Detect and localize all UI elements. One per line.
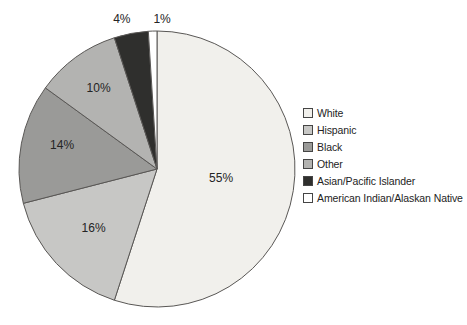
legend-label-hispanic: Hispanic bbox=[317, 124, 356, 136]
slice-label-black: 14% bbox=[50, 138, 74, 152]
pie-chart-figure: 55%16%14%10%4%1% White Hispanic Black Ot… bbox=[0, 0, 467, 325]
legend-swatch-hispanic bbox=[303, 125, 313, 135]
legend-item-american-indian-alaskan-native: American Indian/Alaskan Native bbox=[303, 189, 463, 206]
legend-item-hispanic: Hispanic bbox=[303, 121, 463, 138]
slice-label-white: 55% bbox=[209, 171, 233, 185]
legend-item-white: White bbox=[303, 104, 463, 121]
legend-item-black: Black bbox=[303, 138, 463, 155]
legend-label-other: Other bbox=[317, 158, 343, 170]
legend: White Hispanic Black Other Asian/Pacific… bbox=[303, 104, 463, 206]
legend-swatch-asian-pacific-islander bbox=[303, 176, 313, 186]
slice-label-american-indian-alaskan-native: 1% bbox=[153, 12, 171, 26]
slice-label-other: 10% bbox=[87, 81, 111, 95]
legend-swatch-other bbox=[303, 159, 313, 169]
legend-label-black: Black bbox=[317, 141, 342, 153]
legend-swatch-black bbox=[303, 142, 313, 152]
legend-item-asian-pacific-islander: Asian/Pacific Islander bbox=[303, 172, 463, 189]
legend-label-asian-pacific-islander: Asian/Pacific Islander bbox=[317, 175, 415, 187]
legend-label-american-indian-alaskan-native: American Indian/Alaskan Native bbox=[317, 192, 463, 204]
slice-label-hispanic: 16% bbox=[82, 221, 106, 235]
legend-swatch-white bbox=[303, 108, 313, 118]
legend-label-white: White bbox=[317, 107, 343, 119]
slice-label-asian-pacific-islander: 4% bbox=[113, 12, 131, 26]
legend-swatch-american-indian-alaskan-native bbox=[303, 193, 313, 203]
legend-item-other: Other bbox=[303, 155, 463, 172]
